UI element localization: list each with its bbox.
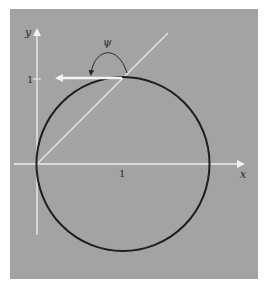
x-tick-label: 1 bbox=[119, 168, 125, 179]
angle-arc bbox=[91, 53, 127, 73]
circle-diagram: y x 1 1 ψ bbox=[0, 0, 275, 300]
y-axis-label: y bbox=[24, 26, 32, 39]
angle-psi-label: ψ bbox=[103, 36, 112, 49]
y-tick-label: 1 bbox=[27, 74, 33, 85]
x-axis-label: x bbox=[240, 168, 247, 181]
diagonal-line bbox=[37, 33, 168, 164]
